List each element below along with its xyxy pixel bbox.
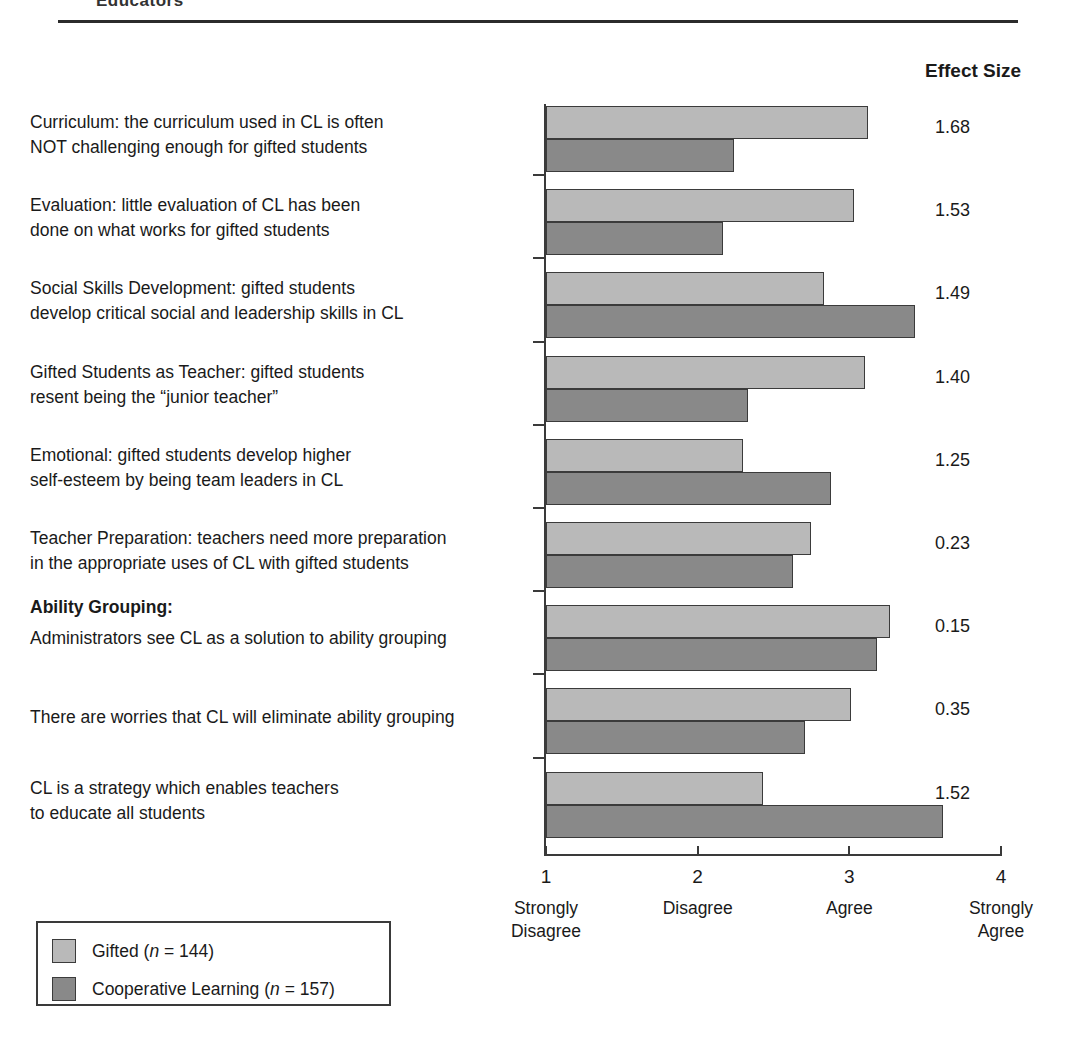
bar-gifted <box>546 356 865 389</box>
value-axis-tick-caption: Agree <box>789 897 909 920</box>
legend-swatch-icon <box>52 977 76 1001</box>
bar-cooperative-learning <box>546 139 734 172</box>
value-axis-tick-caption: Disagree <box>638 897 758 920</box>
legend-swatch-icon <box>52 939 76 963</box>
value-axis-line <box>544 854 1001 856</box>
row-label: Ability Grouping: <box>30 595 173 620</box>
row-sublabel: Administrators see CL as a solution to a… <box>30 626 447 651</box>
value-axis-tick <box>545 846 547 856</box>
category-tick <box>533 174 545 176</box>
effect-size-value: 1.68 <box>935 117 970 138</box>
effect-size-value: 1.49 <box>935 283 970 304</box>
value-axis-tick-number: 1 <box>516 866 576 888</box>
row-label: Social Skills Development: gifted studen… <box>30 276 404 326</box>
bar-cooperative-learning <box>546 805 943 838</box>
bar-cooperative-learning <box>546 305 915 338</box>
value-axis-tick-caption: Strongly Disagree <box>486 897 606 943</box>
row-label: Emotional: gifted students develop highe… <box>30 443 351 493</box>
bar-gifted <box>546 772 763 805</box>
bar-cooperative-learning <box>546 222 723 255</box>
category-tick <box>533 757 545 759</box>
category-tick <box>533 257 545 259</box>
category-tick <box>533 341 545 343</box>
effect-size-value: 0.15 <box>935 616 970 637</box>
legend-label: Cooperative Learning (n = 157) <box>92 979 335 1000</box>
effect-size-value: 1.40 <box>935 367 970 388</box>
bar-gifted <box>546 272 824 305</box>
value-axis-tick-number: 2 <box>668 866 728 888</box>
row-label: Teacher Preparation: teachers need more … <box>30 526 446 576</box>
value-axis-tick <box>848 846 850 856</box>
category-tick <box>533 673 545 675</box>
row-label: CL is a strategy which enables teachers … <box>30 776 339 826</box>
category-tick <box>533 424 545 426</box>
bar-chart: Curriculum: the curriculum used in CL is… <box>0 0 1075 1040</box>
value-axis-tick <box>697 846 699 856</box>
chart-legend: Gifted (n = 144)Cooperative Learning (n … <box>36 921 391 1006</box>
category-tick <box>533 590 545 592</box>
value-axis-tick-caption: Strongly Agree <box>941 897 1061 943</box>
bar-gifted <box>546 688 851 721</box>
category-tick <box>533 507 545 509</box>
row-label: There are worries that CL will eliminate… <box>30 705 454 730</box>
effect-size-value: 0.35 <box>935 699 970 720</box>
effect-size-value: 1.53 <box>935 200 970 221</box>
effect-size-value: 1.25 <box>935 450 970 471</box>
bar-cooperative-learning <box>546 389 748 422</box>
bar-gifted <box>546 439 743 472</box>
legend-item: Cooperative Learning (n = 157) <box>52 975 335 1003</box>
effect-size-value: 1.52 <box>935 783 970 804</box>
bar-cooperative-learning <box>546 721 805 754</box>
bar-gifted <box>546 605 890 638</box>
row-label: Gifted Students as Teacher: gifted stude… <box>30 360 364 410</box>
value-axis-tick <box>1000 846 1002 856</box>
effect-size-value: 0.23 <box>935 533 970 554</box>
bar-cooperative-learning <box>546 472 831 505</box>
row-label: Curriculum: the curriculum used in CL is… <box>30 110 383 160</box>
bar-cooperative-learning <box>546 555 793 588</box>
legend-label: Gifted (n = 144) <box>92 941 214 962</box>
value-axis-tick-number: 3 <box>819 866 879 888</box>
bar-gifted <box>546 522 811 555</box>
bar-gifted <box>546 189 854 222</box>
row-label: Evaluation: little evaluation of CL has … <box>30 193 360 243</box>
legend-item: Gifted (n = 144) <box>52 937 214 965</box>
bar-gifted <box>546 106 868 139</box>
bar-cooperative-learning <box>546 638 877 671</box>
value-axis-tick-number: 4 <box>971 866 1031 888</box>
